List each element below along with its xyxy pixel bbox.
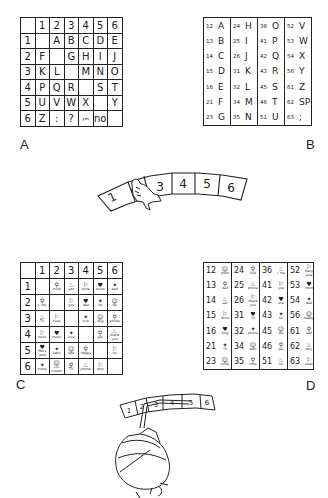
grid-c-symbol-cell: ✦he — [93, 295, 108, 311]
code-entry: 24H — [231, 18, 257, 33]
code-entry: 12A — [204, 18, 230, 33]
arc-top-key-5: 5 — [203, 177, 211, 191]
code-entry: 26J — [231, 49, 257, 64]
code-entry: 21✦TV — [204, 339, 231, 354]
entry-code: 24 — [234, 266, 246, 275]
entry-code: 45 — [262, 327, 274, 336]
grid-c-row-header: 6 — [21, 359, 36, 375]
grid-a-cell: Y — [108, 95, 123, 111]
entry-letter: B — [218, 36, 224, 46]
grid-a-row-header: 2 — [21, 49, 36, 65]
grid-a-cell — [79, 80, 94, 96]
entry-code: 53 — [290, 281, 302, 290]
entry-letter: L — [245, 82, 250, 92]
entry-symbol: ☺bath — [247, 342, 259, 352]
entry-code: 51 — [262, 357, 274, 366]
entry-code: 43 — [260, 68, 270, 74]
entry-code: 15 — [206, 311, 218, 320]
symbol-caption: sad — [306, 331, 312, 335]
entry-code: 34 — [233, 99, 243, 105]
symbol-caption: sick — [83, 319, 89, 323]
grid-c-row-header: 2 — [21, 295, 36, 311]
entry-letter: D — [218, 66, 225, 76]
entry-symbol: ♨eat — [219, 296, 231, 306]
code-entry: 51♨no — [260, 354, 287, 369]
grid-a-col-header: 4 — [79, 18, 94, 34]
grid-a-cell: A — [50, 33, 65, 49]
grid-a-col-header: 3 — [64, 18, 79, 34]
grid-c-symbol-cell — [50, 295, 65, 311]
code-entry: 42♥she — [260, 293, 287, 308]
code-entry: 35N — [231, 110, 257, 125]
code-entry: 52V — [285, 18, 311, 33]
grid-a-col-header: 1 — [35, 18, 50, 34]
entry-letter: P — [272, 36, 277, 46]
entry-code: 23 — [206, 357, 218, 366]
entry-code: 56 — [290, 311, 302, 320]
entry-code: 36 — [260, 23, 270, 29]
entry-letter: E — [218, 82, 224, 92]
entry-letter: J — [245, 51, 248, 61]
grid-a-cell: S — [93, 80, 108, 96]
symbol-caption: sad — [68, 351, 74, 355]
symbol-caption: happy — [304, 316, 314, 320]
entry-code: 56 — [287, 68, 297, 74]
grid-c-symbol-cell: ✦bath — [50, 343, 65, 359]
entry-code: 43 — [262, 311, 274, 320]
entry-symbol: ⚲sick — [247, 266, 259, 276]
symbol-caption: food — [53, 319, 60, 323]
entry-letter: W — [299, 36, 308, 46]
entry-letter: K — [245, 66, 251, 76]
grid-c-col-header: 2 — [50, 263, 65, 279]
symbol-caption: mom — [305, 286, 313, 290]
code-column: 52V53W54X56Y61Z62SP63; — [285, 18, 311, 125]
panel-d-symbol-code-list: 12☺mom13⚲dad14♨eat15⚐drink16♥sing21✦TV23… — [203, 262, 314, 370]
grid-c-col-header: 6 — [108, 263, 123, 279]
symbol-caption: dad — [83, 303, 89, 307]
grid-a-row-header: 1 — [21, 33, 36, 49]
grid-a-corner — [21, 18, 36, 34]
entry-code: 63 — [290, 357, 302, 366]
grid-a-col-header: 5 — [93, 18, 108, 34]
code-entry: 35⚲time — [232, 354, 259, 369]
entry-code: 36 — [262, 266, 274, 275]
entry-code: 32 — [234, 327, 246, 336]
grid-a-cell: I — [93, 49, 108, 65]
grid-a-row-header: 3 — [21, 64, 36, 80]
symbol-caption: yes — [97, 335, 103, 339]
entry-code: 53 — [287, 38, 297, 44]
entry-code: 16 — [206, 327, 218, 336]
entry-code: 46 — [262, 342, 274, 351]
symbol-caption: phone — [110, 319, 120, 323]
entry-code: 23 — [206, 114, 216, 120]
code-entry: 43R — [258, 64, 284, 79]
symbol-caption: drink — [221, 316, 229, 320]
entry-code: 21 — [206, 342, 218, 351]
symbol-caption: toilet — [221, 362, 229, 366]
grid-a-cell: W — [64, 95, 79, 111]
grid-c-symbol-cell: ✦love — [64, 327, 79, 343]
grid-c-symbol-cell: ⚲phone — [108, 311, 123, 327]
entry-code: 12 — [206, 266, 218, 275]
code-entry: 31♥TV — [232, 308, 259, 323]
entry-letter: F — [218, 97, 223, 107]
code-entry: 63; — [285, 110, 311, 125]
grid-a-cell: F — [35, 49, 50, 65]
symbol-caption: she — [278, 301, 284, 305]
entry-code: 16 — [206, 84, 216, 90]
entry-symbol: ♥sing — [219, 326, 231, 336]
entry-symbol: ♥she — [275, 296, 287, 306]
code-column: 12A13B14C15D16E21F23G — [204, 18, 231, 125]
symbol-caption: I, me — [38, 303, 46, 307]
grid-a-row-header: 5 — [21, 95, 36, 111]
grid-c-symbol-cell: ⚲happy — [79, 343, 94, 359]
code-entry: 56Y — [285, 64, 311, 79]
entry-letter: G — [218, 112, 225, 122]
entry-letter: O — [272, 21, 279, 31]
grid-a-cell: M — [79, 64, 94, 80]
symbol-caption: he — [98, 303, 102, 307]
entry-symbol: ♨phone — [247, 281, 259, 291]
entry-code: 35 — [234, 357, 246, 366]
entry-symbol: ⚐later — [303, 357, 315, 367]
entry-symbol: ⚐you — [275, 281, 287, 291]
